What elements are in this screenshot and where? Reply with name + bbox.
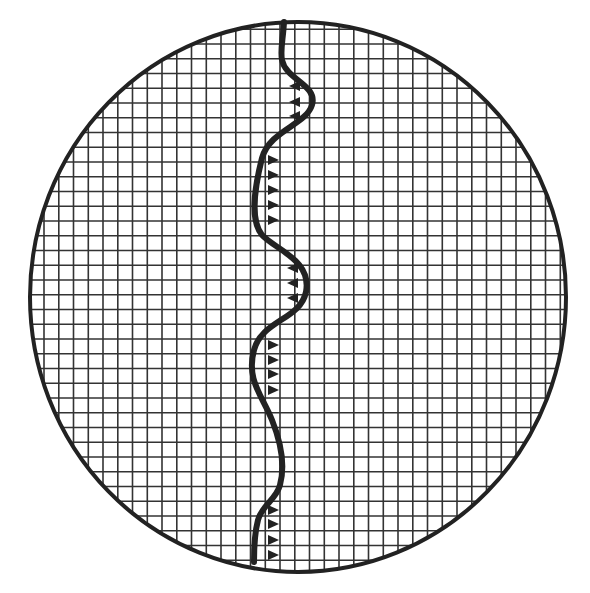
triangle-marker-icon (268, 505, 279, 515)
triangle-marker-icon (268, 519, 279, 529)
triangle-marker-icon (268, 200, 279, 210)
triangle-marker-icon (268, 215, 279, 225)
triangle-marker-icon (268, 369, 279, 379)
triangle-marker-icon (268, 355, 279, 365)
triangle-marker-icon (268, 550, 279, 560)
triangle-marker-icon (268, 185, 279, 195)
diagram-canvas (0, 0, 590, 593)
triangle-marker-icon (268, 535, 279, 545)
triangle-marker-icon (268, 170, 279, 180)
triangle-marker-icon (268, 385, 279, 395)
triangle-marker-icon (268, 340, 279, 350)
triangle-marker-icon (268, 155, 279, 165)
